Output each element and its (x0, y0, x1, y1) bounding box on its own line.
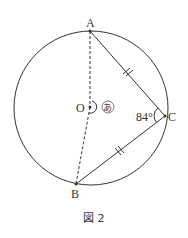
label-C: C (168, 110, 176, 124)
point-O (89, 106, 92, 109)
label-A: A (86, 16, 95, 30)
geometry-diagram: A B C O 84° あ 図 2 (0, 0, 188, 238)
angle-arc-C (154, 108, 158, 123)
equal-mark-AC (123, 68, 133, 76)
label-B: B (71, 187, 79, 201)
segment-BC (76, 116, 165, 184)
angle-O-label: あ (103, 103, 112, 113)
figure-caption: 図 2 (83, 212, 105, 225)
angle-C-label: 84° (136, 110, 153, 124)
segment-AC (90, 31, 165, 116)
point-C (164, 115, 167, 118)
point-B (75, 183, 78, 186)
label-O: O (76, 101, 85, 115)
segment-OB (76, 107, 90, 184)
